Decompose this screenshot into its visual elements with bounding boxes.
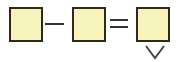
color-swatch-subtrahend[interactable]: color swatch B (72, 7, 106, 42)
chevron-down-icon[interactable]: Expand result swatch options (145, 45, 165, 60)
color-swatch-result[interactable]: color swatch C (136, 7, 170, 42)
color-swatch-minuend[interactable]: color swatch A (9, 7, 43, 42)
equals-bar-bottom (110, 26, 128, 28)
swatch-equation-diagram: color swatch A minus color swatch B equa… (0, 0, 182, 62)
minus-bar (45, 23, 64, 25)
minus-sign-icon: minus (45, 18, 64, 30)
equals-sign-icon: equals (110, 16, 128, 30)
equals-bar-top (110, 19, 128, 21)
